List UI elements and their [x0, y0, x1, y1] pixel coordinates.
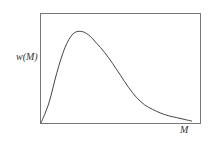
w-of-m-curve [41, 31, 192, 123]
x-axis-label: M [180, 124, 188, 135]
plot-frame [41, 14, 201, 124]
y-axis-label: w(M) [16, 51, 38, 62]
distribution-chart [0, 0, 216, 143]
